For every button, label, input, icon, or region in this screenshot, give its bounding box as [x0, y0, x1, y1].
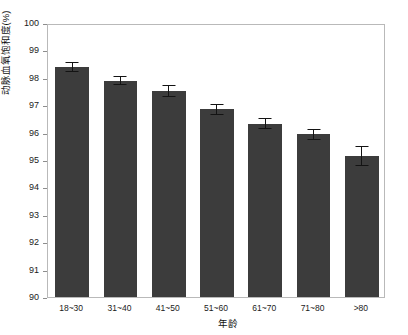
error-bar-cap-bottom [307, 139, 320, 140]
y-tick-label: 97 [29, 100, 39, 110]
y-tick-label: 93 [29, 210, 39, 220]
bar-group[interactable] [297, 134, 331, 297]
bar[interactable] [248, 124, 282, 297]
bar[interactable] [104, 81, 138, 297]
error-bar [66, 62, 79, 71]
error-bar [355, 146, 368, 166]
error-bar-cap-bottom [66, 71, 79, 72]
x-axis-label: 年龄 [171, 318, 238, 329]
bar[interactable] [152, 91, 186, 297]
x-tick-label: 18~30 [59, 303, 83, 313]
plot-area [48, 25, 384, 297]
error-bar [162, 85, 175, 97]
error-bar-cap-bottom [210, 114, 223, 115]
bar-group[interactable] [248, 124, 282, 297]
bar[interactable] [55, 67, 89, 297]
error-bar-cap-top [162, 85, 175, 86]
error-bar-cap-bottom [114, 84, 127, 85]
y-axis-label: 动脉血氧饱和度(%) [0, 0, 12, 118]
y-tick-label: 92 [29, 237, 39, 247]
y-tick-label: 94 [29, 182, 39, 192]
error-bar-cap-top [307, 129, 320, 130]
error-bar-cap-top [355, 146, 368, 147]
x-tick-label: >80 [354, 303, 368, 313]
error-bar [114, 76, 127, 86]
error-bar-cap-top [210, 104, 223, 105]
bar[interactable] [345, 156, 379, 297]
bar-chart-figure: 动脉血氧饱和度(%) 90919293949596979899100 18~30… [0, 0, 408, 335]
error-bar-cap-bottom [259, 128, 272, 129]
y-tick-label: 96 [29, 128, 39, 138]
error-bar-cap-top [259, 118, 272, 119]
y-tick-label: 90 [29, 292, 39, 302]
y-tick-label: 95 [29, 155, 39, 165]
error-bar-line [361, 146, 362, 166]
bar-group[interactable] [152, 91, 186, 297]
error-bar [259, 118, 272, 128]
x-tick-label: 41~50 [156, 303, 180, 313]
x-tick-label: 71~80 [301, 303, 325, 313]
error-bar-cap-top [66, 62, 79, 63]
y-tick-label: 98 [29, 73, 39, 83]
bar-group[interactable] [345, 156, 379, 297]
y-tick-label: 99 [29, 45, 39, 55]
x-axis-label-wrapper: 年龄 [0, 316, 408, 330]
error-bar [307, 129, 320, 141]
x-tick-label: 31~40 [107, 303, 131, 313]
y-tick-label: 100 [24, 18, 39, 28]
x-tick-label: 61~70 [252, 303, 276, 313]
bar-group[interactable] [55, 67, 89, 297]
bar-group[interactable] [200, 109, 234, 297]
error-bar-cap-bottom [162, 96, 175, 97]
y-tick-mark [43, 298, 47, 299]
bar[interactable] [200, 109, 234, 297]
error-bar [210, 104, 223, 114]
bar[interactable] [297, 134, 331, 297]
y-tick-label: 91 [29, 265, 39, 275]
error-bar-cap-top [114, 76, 127, 77]
bar-group[interactable] [104, 81, 138, 297]
x-tick-label: 51~60 [204, 303, 228, 313]
error-bar-cap-bottom [355, 165, 368, 166]
plot-frame [47, 24, 385, 298]
